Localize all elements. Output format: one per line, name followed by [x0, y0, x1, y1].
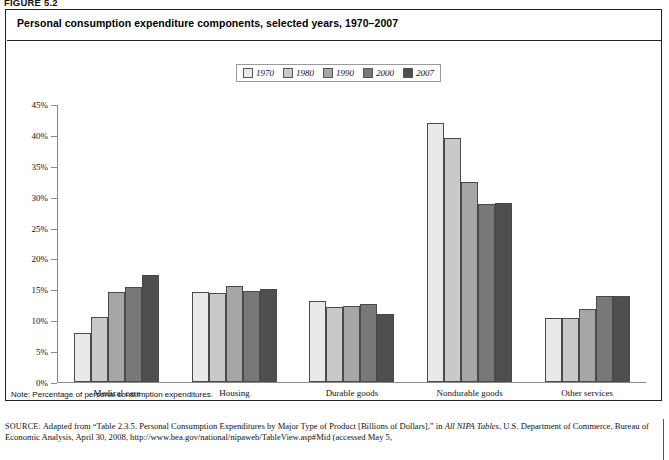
bar-2007[interactable]: [260, 289, 277, 382]
y-tick-label: 5%: [36, 347, 48, 357]
y-tick: [51, 321, 57, 322]
bar-1980[interactable]: [444, 138, 461, 382]
legend-swatch-icon-1980: [283, 68, 293, 78]
y-tick: [51, 198, 57, 199]
bar-1990[interactable]: [461, 182, 478, 382]
legend-swatch-icon-2000: [363, 68, 373, 78]
y-tick-label: 0%: [36, 378, 48, 388]
title-divider: [7, 40, 662, 41]
bar-1980[interactable]: [562, 318, 579, 382]
legend-item-1970[interactable]: 1970: [243, 68, 274, 78]
legend-swatch-icon-2007: [403, 68, 413, 78]
y-tick: [51, 105, 57, 106]
legend-item-1990[interactable]: 1990: [323, 68, 354, 78]
legend-item-2000[interactable]: 2000: [363, 68, 394, 78]
bar-1980[interactable]: [209, 293, 226, 382]
bar-1970[interactable]: [309, 301, 326, 382]
x-axis-label: Other services: [561, 388, 613, 398]
bar-2000[interactable]: [243, 291, 260, 382]
y-tick-label: 40%: [32, 131, 49, 141]
chart-note: Note: Percentage of personal consumption…: [11, 390, 213, 399]
y-tick: [51, 383, 57, 384]
legend-label-2007: 2007: [416, 68, 434, 78]
y-tick: [51, 352, 57, 353]
bar-1970[interactable]: [74, 333, 91, 382]
x-axis-label: Nondurable goods: [436, 388, 502, 398]
legend-label-1980: 1980: [296, 68, 314, 78]
y-tick: [51, 229, 57, 230]
x-axis-line: [57, 382, 646, 383]
bar-1980[interactable]: [326, 307, 343, 382]
bar-1970[interactable]: [427, 123, 444, 382]
x-axis-label: Durable goods: [326, 388, 379, 398]
bar-2007[interactable]: [495, 203, 512, 382]
bar-2007[interactable]: [613, 296, 630, 382]
bar-2000[interactable]: [125, 287, 142, 382]
source-text-1: Adapted from “Table 2.3.5. Personal Cons…: [41, 421, 445, 431]
bar-1980[interactable]: [91, 317, 108, 382]
source-italic-title: All NIPA Tables: [445, 421, 499, 431]
bar-1990[interactable]: [226, 286, 243, 382]
legend-label-2000: 2000: [376, 68, 394, 78]
y-tick: [51, 259, 57, 260]
y-tick-label: 10%: [32, 316, 49, 326]
bar-group: [528, 105, 646, 382]
legend-swatch-icon-1970: [243, 68, 253, 78]
bar-2000[interactable]: [478, 204, 495, 382]
bar-group: [411, 105, 529, 382]
y-tick-label: 35%: [32, 162, 49, 172]
bar-1990[interactable]: [579, 309, 596, 382]
source-right-rule: [663, 419, 664, 460]
y-tick-label: 15%: [32, 285, 49, 295]
bar-2007[interactable]: [377, 314, 394, 382]
bar-1970[interactable]: [192, 292, 209, 382]
bar-group: [176, 105, 294, 382]
y-tick: [51, 167, 57, 168]
legend-swatch-icon-1990: [323, 68, 333, 78]
y-tick: [51, 136, 57, 137]
chart-title: Personal consumption expenditure compone…: [17, 17, 398, 29]
legend-label-1990: 1990: [336, 68, 354, 78]
bar-2007[interactable]: [142, 275, 159, 382]
bar-groups: [58, 105, 646, 382]
legend-item-1980[interactable]: 1980: [283, 68, 314, 78]
legend-label-1970: 1970: [256, 68, 274, 78]
y-tick-label: 20%: [32, 254, 49, 264]
chart-legend: 19701980199020002007: [236, 64, 441, 82]
bar-group: [58, 105, 176, 382]
bar-1990[interactable]: [108, 292, 125, 382]
y-tick: [51, 290, 57, 291]
bar-1970[interactable]: [545, 318, 562, 382]
y-tick-label: 25%: [32, 224, 49, 234]
figure-label: FIGURE 5.2: [4, 0, 58, 8]
chart-source: SOURCE: Adapted from “Table 2.3.5. Perso…: [5, 421, 661, 444]
bar-1990[interactable]: [343, 306, 360, 382]
bar-group: [293, 105, 411, 382]
source-prefix: SOURCE:: [5, 422, 41, 431]
bar-2000[interactable]: [596, 296, 613, 382]
y-tick-label: 45%: [32, 100, 49, 110]
x-axis-label: Housing: [219, 388, 250, 398]
legend-item-2007[interactable]: 2007: [403, 68, 434, 78]
y-tick-label: 30%: [32, 193, 49, 203]
plot-area: 45%40%35%30%25%20%15%10%5%0% Medical car…: [57, 105, 646, 383]
bar-2000[interactable]: [360, 304, 377, 382]
